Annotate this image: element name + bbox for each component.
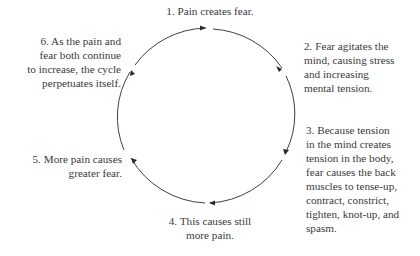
step-3-label: 3. Because tension in the mind creates t… bbox=[306, 123, 399, 235]
step-6-label: 6. As the pain and fear both continue to… bbox=[0, 34, 121, 90]
step-1-label: 1. Pain creates fear. bbox=[150, 4, 270, 18]
step-5-label: 5. More pain causes greater fear. bbox=[0, 152, 122, 180]
arc-6-to-1 bbox=[135, 28, 206, 65]
arc-4-to-5 bbox=[131, 158, 205, 203]
arrowhead-icon bbox=[130, 70, 135, 76]
arc-3-to-4 bbox=[210, 160, 282, 203]
arrowhead-icon bbox=[200, 26, 206, 31]
step-4-label: 4. This causes still more pain. bbox=[150, 214, 270, 242]
arrowhead-icon bbox=[283, 149, 289, 155]
arc-1-to-2 bbox=[213, 29, 282, 68]
step-2-label: 2. Fear agitates the mind, causing stres… bbox=[304, 39, 394, 95]
arrowhead-icon bbox=[209, 201, 215, 206]
arc-2-to-3 bbox=[286, 76, 295, 152]
